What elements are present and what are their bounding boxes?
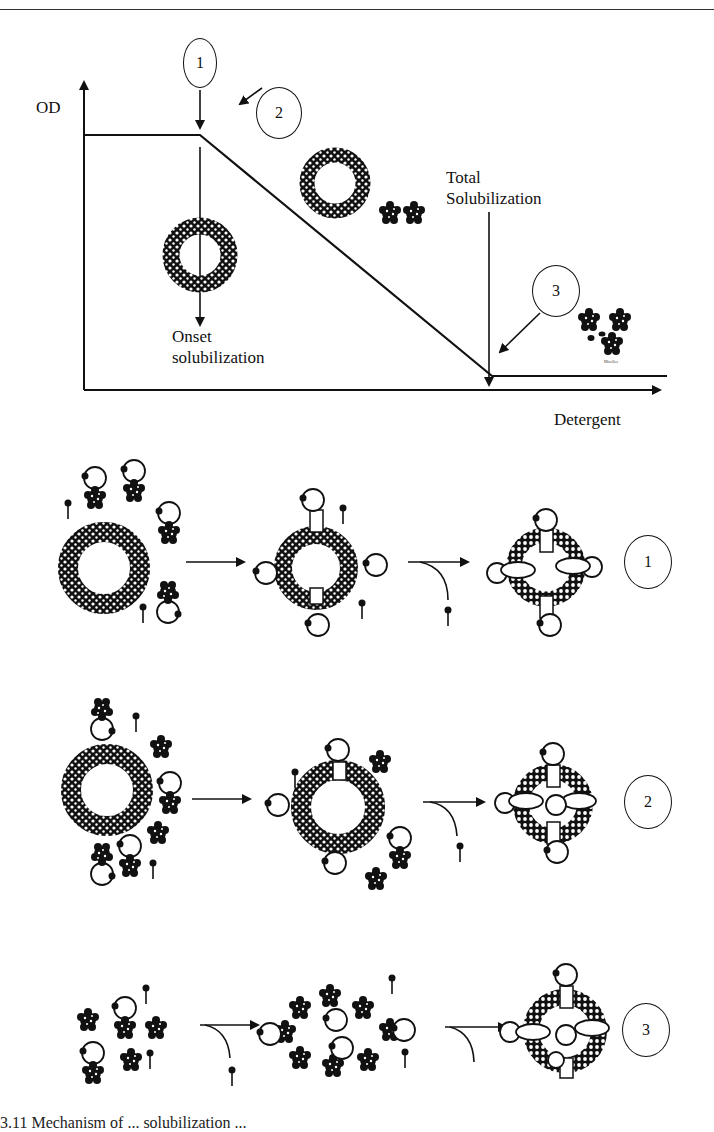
stage-2-row xyxy=(71,698,596,890)
stage-1-row xyxy=(65,460,603,636)
stage-marker-2: 2 xyxy=(624,775,672,829)
micelles-label: Micelles xyxy=(604,359,618,364)
figure-caption-partial: 3.11 Mechanism of ... solubilization ... xyxy=(0,1114,246,1132)
onset-label-line1: Onset xyxy=(172,327,212,347)
stage-marker-1: 1 xyxy=(624,535,672,589)
total-label-line1: Total xyxy=(446,168,481,188)
graph-marker-2: 2 xyxy=(256,87,302,139)
total-label-line2: Solubilization xyxy=(446,189,541,209)
x-axis-label: Detergent xyxy=(554,410,621,430)
graph-marker-3: 3 xyxy=(532,265,580,317)
y-axis-label: OD xyxy=(36,98,61,118)
onset-label-line2: solubilization xyxy=(172,348,265,368)
mixed-micelle-aggregate xyxy=(257,984,416,1077)
stage-marker-3: 3 xyxy=(622,1003,670,1057)
graph-marker-1: 1 xyxy=(183,38,217,88)
stage-3-row xyxy=(77,964,609,1086)
